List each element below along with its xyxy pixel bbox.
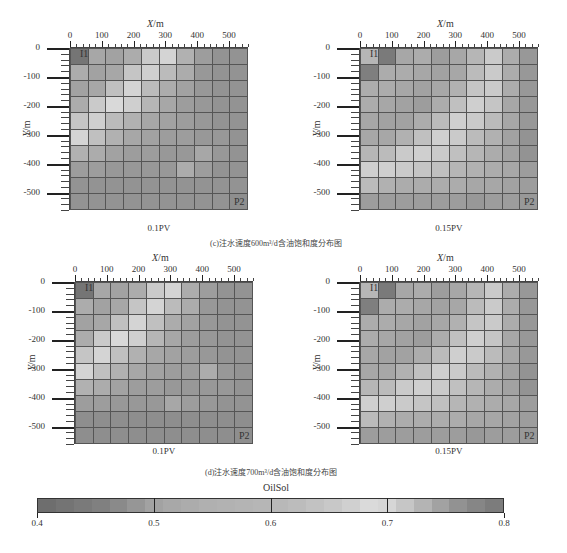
grid-cell (450, 331, 467, 346)
grid-cell (379, 347, 396, 362)
grid-cell (379, 428, 396, 443)
grid-cell (520, 283, 537, 298)
grid-cell (414, 130, 431, 145)
grid-cell (147, 283, 164, 298)
grid-cell (142, 65, 159, 80)
grid-cell (230, 81, 247, 96)
grid-cell (235, 412, 252, 427)
grid-cell (396, 65, 413, 80)
grid-cell (361, 364, 378, 379)
grid-cell (111, 315, 128, 330)
grid-cell (432, 412, 449, 427)
grid-cell (235, 396, 252, 411)
grid-cell (379, 146, 396, 161)
grid-cell (142, 162, 159, 177)
grid-cell (379, 130, 396, 145)
grid-cell (503, 97, 520, 112)
grid-cell (94, 315, 111, 330)
grid-cell (89, 146, 106, 161)
well-label-injector: I1 (80, 48, 88, 59)
grid-cell (111, 428, 128, 443)
grid-cell (177, 97, 194, 112)
y-axis (353, 282, 360, 444)
grid-cell (124, 178, 141, 193)
grid-cell (361, 97, 378, 112)
grid-cell (71, 130, 88, 145)
grid-cell (485, 178, 502, 193)
grid-cell (414, 364, 431, 379)
colorbar-segment (217, 499, 235, 512)
grid-cell (160, 113, 177, 128)
grid-cell (485, 130, 502, 145)
grid-cell (396, 113, 413, 128)
colorbar-tick-label: 0.7 (382, 518, 393, 528)
grid-cell (361, 347, 378, 362)
grid-cell (177, 162, 194, 177)
grid-cell (218, 412, 235, 427)
grid-cell (520, 380, 537, 395)
grid-cell (432, 65, 449, 80)
y-tick-label: 0 (300, 276, 330, 286)
grid-cell (129, 299, 146, 314)
x-tick-label: 100 (95, 30, 109, 40)
y-tick-label: 0 (15, 276, 45, 286)
grid-cell (111, 347, 128, 362)
grid-cell (361, 178, 378, 193)
grid-cell (165, 364, 182, 379)
grid-cell (165, 331, 182, 346)
grid-cell (195, 162, 212, 177)
colorbar-segment (414, 499, 432, 512)
y-tick-label: -500 (15, 421, 45, 431)
colorbar-tick-label: 0.8 (498, 518, 509, 528)
grid-cell (450, 113, 467, 128)
grid-cell (195, 146, 212, 161)
grid-cell (218, 331, 235, 346)
grid-cell (147, 347, 164, 362)
grid-cell (147, 331, 164, 346)
panel-c-0.15pv: X/m0100200300400500Y/m0-100-200-300-400-… (310, 18, 567, 243)
grid-cell (432, 428, 449, 443)
grid-cell (450, 283, 467, 298)
x-tick-label: 300 (164, 264, 178, 274)
grid-cell (142, 146, 159, 161)
grid-cell (94, 331, 111, 346)
grid-cell (450, 178, 467, 193)
colorbar-tick-mark (271, 498, 272, 513)
grid-cell (467, 299, 484, 314)
grid-cell (182, 396, 199, 411)
saturation-grid (360, 48, 538, 210)
grid-cell (396, 162, 413, 177)
grid-cell (129, 315, 146, 330)
grid-cell (520, 65, 537, 80)
grid-cell (485, 299, 502, 314)
grid-cell (195, 130, 212, 145)
grid-cell (142, 178, 159, 193)
colorbar-segment (271, 499, 289, 512)
grid-cell (520, 396, 537, 411)
grid-cell (396, 194, 413, 209)
grid-cell (129, 364, 146, 379)
x-tick-label: 0 (358, 30, 363, 40)
well-label-producer: P2 (239, 430, 250, 441)
grid-cell (520, 97, 537, 112)
grid-cell (165, 396, 182, 411)
colorbar-segment (253, 499, 271, 512)
grid-cell (76, 347, 93, 362)
grid-cell (396, 146, 413, 161)
grid-cell (414, 178, 431, 193)
grid-cell (165, 380, 182, 395)
saturation-grid (70, 48, 248, 210)
grid-cell (71, 97, 88, 112)
grid-cell (432, 299, 449, 314)
grid-cell (160, 97, 177, 112)
grid-cell (414, 396, 431, 411)
saturation-grid (360, 282, 538, 444)
colorbar-segment (92, 499, 110, 512)
grid-cell (432, 396, 449, 411)
colorbar-segment (288, 499, 306, 512)
grid-cell (89, 178, 106, 193)
grid-cell (432, 97, 449, 112)
grid-cell (503, 396, 520, 411)
grid-cell (160, 178, 177, 193)
colorbar-segment (38, 499, 56, 512)
